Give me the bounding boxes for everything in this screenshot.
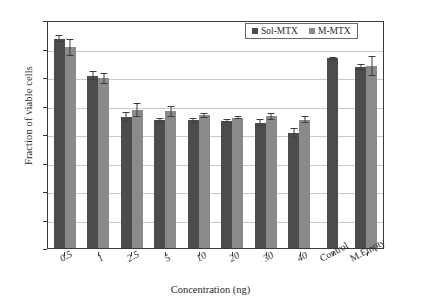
bar[interactable]: [98, 78, 109, 248]
bar[interactable]: [188, 120, 199, 248]
bar-fill: [288, 133, 299, 248]
x-axis-tick-text: 5: [162, 252, 172, 264]
legend-swatch-icon: [309, 28, 315, 34]
error-bar: [70, 39, 71, 56]
bar-groups: [48, 22, 383, 248]
x-axis-title: Concentration (ng): [0, 284, 421, 295]
bar-fill: [54, 39, 65, 248]
bar-group: [216, 22, 250, 248]
error-bar: [260, 119, 261, 126]
bar-fill: [299, 120, 310, 248]
x-axis-tick-text: 40: [295, 249, 309, 263]
error-bar: [59, 35, 60, 42]
error-bar: [293, 128, 294, 138]
error-bar: [371, 56, 372, 76]
x-axis-tick-text: 10: [194, 249, 208, 263]
bar-group: [149, 22, 183, 248]
bar-fill: [366, 66, 377, 248]
bar-fill: [221, 121, 232, 248]
y-axis-title: Fraction of viable cells: [23, 31, 34, 201]
x-axis-tick-text: 30: [261, 249, 275, 263]
bar[interactable]: [221, 121, 232, 248]
bar-fill: [327, 58, 338, 248]
bar[interactable]: [266, 116, 277, 248]
bar-group: [316, 22, 350, 248]
bar-group: [82, 22, 116, 248]
bar-group: [115, 22, 149, 248]
error-bar: [137, 103, 138, 117]
legend-entry[interactable]: Sol-MTX: [252, 26, 298, 36]
bar[interactable]: [165, 111, 176, 248]
bar-group: [249, 22, 283, 248]
bar[interactable]: [65, 47, 76, 248]
error-bar: [204, 113, 205, 117]
bar-chart-figure: Fraction of viable cells 00.20.40.60.811…: [0, 0, 421, 302]
bar-fill: [98, 78, 109, 248]
chart-legend: Sol-MTXM-MTX: [245, 23, 358, 39]
bar[interactable]: [232, 118, 243, 248]
error-bar: [193, 118, 194, 122]
error-bar: [304, 116, 305, 123]
bar[interactable]: [87, 76, 98, 248]
bar[interactable]: [255, 123, 266, 248]
bar[interactable]: [54, 39, 65, 248]
bar[interactable]: [288, 133, 299, 248]
error-bar: [170, 106, 171, 117]
bar[interactable]: [132, 110, 143, 248]
bar[interactable]: [366, 66, 377, 248]
bar-fill: [266, 116, 277, 248]
bar-group: [283, 22, 317, 248]
bar[interactable]: [355, 67, 366, 248]
bar[interactable]: [327, 58, 338, 248]
bar-fill: [188, 120, 199, 248]
bar[interactable]: [199, 115, 210, 248]
bar[interactable]: [121, 117, 132, 248]
error-bar: [103, 73, 104, 84]
plot-area: [47, 21, 384, 249]
bar-fill: [355, 67, 366, 248]
error-bar: [360, 64, 361, 70]
bar-fill: [87, 76, 98, 248]
bar-fill: [121, 117, 132, 248]
error-bar: [237, 116, 238, 119]
x-axis-tick-text: 20: [227, 249, 241, 263]
legend-label: Sol-MTX: [261, 26, 298, 36]
bar-fill: [165, 111, 176, 248]
bar-fill: [65, 47, 76, 248]
error-bar: [271, 113, 272, 120]
bar-fill: [199, 115, 210, 248]
bar[interactable]: [154, 120, 165, 248]
bar-fill: [132, 110, 143, 248]
legend-entry[interactable]: M-MTX: [309, 26, 351, 36]
x-axis-tick-text: 1: [95, 252, 105, 264]
bar-group: [48, 22, 82, 248]
error-bar: [332, 57, 333, 59]
error-bar: [159, 118, 160, 122]
error-bar: [92, 71, 93, 80]
error-bar: [126, 112, 127, 122]
bar-group: [182, 22, 216, 248]
legend-swatch-icon: [252, 28, 258, 34]
bar-fill: [255, 123, 266, 248]
y-axis-tick-mark: [43, 249, 47, 250]
legend-label: M-MTX: [318, 26, 351, 36]
x-axis-tick-text: 0.5: [58, 248, 74, 264]
bar-fill: [154, 120, 165, 248]
bar-fill: [232, 118, 243, 248]
x-axis-tick-text: 2.5: [125, 248, 141, 264]
error-bar: [226, 119, 227, 123]
bar-group: [350, 22, 384, 248]
bar[interactable]: [299, 120, 310, 248]
